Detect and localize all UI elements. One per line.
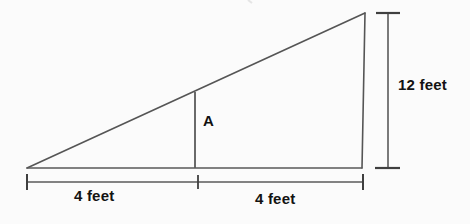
height-dimension-line bbox=[375, 13, 400, 168]
triangle-hypotenuse bbox=[27, 13, 365, 168]
height-dimension-label: 12 feet bbox=[398, 76, 447, 93]
triangle-right-leg bbox=[362, 13, 365, 168]
scan-artifact bbox=[248, 0, 252, 3]
geometry-diagram: 4 feet 4 feet 12 feet A bbox=[0, 0, 470, 224]
base-left-dimension-label: 4 feet bbox=[74, 187, 114, 204]
scan-artifact-mark bbox=[248, 0, 252, 3]
region-a-label: A bbox=[203, 112, 214, 129]
diagram-canvas bbox=[0, 0, 470, 224]
triangle-outline bbox=[27, 13, 365, 168]
base-right-dimension-label: 4 feet bbox=[255, 190, 295, 207]
